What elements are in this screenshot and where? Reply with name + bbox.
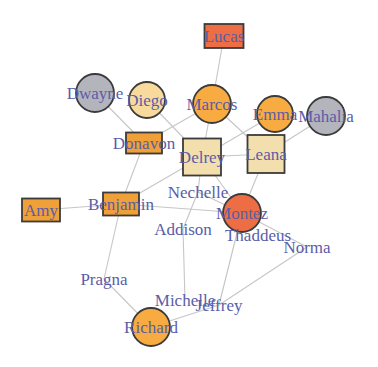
edge-addison-michelle <box>183 229 185 300</box>
node-delrey <box>183 139 221 176</box>
node-richard <box>132 308 170 346</box>
node-donavon <box>126 133 162 154</box>
node-emma <box>257 96 293 132</box>
node-montez <box>223 194 261 232</box>
edge-nechelle-addison <box>183 192 198 229</box>
node-dwayne <box>76 74 114 112</box>
node-amy <box>22 199 60 222</box>
node-benjamin <box>103 193 139 216</box>
graph-canvas: LucasDwayneDiegoMarcosEmmaMahaliaDonavon… <box>0 0 378 367</box>
node-diego <box>129 82 165 118</box>
node-marcos <box>193 85 231 123</box>
edge-norma-jeffrey <box>219 247 307 305</box>
node-leana <box>248 135 285 173</box>
node-label-norma: Norma <box>283 238 331 257</box>
node-mahalia <box>307 97 345 135</box>
network-graph: LucasDwayneDiegoMarcosEmmaMahaliaDonavon… <box>0 0 378 367</box>
node-lucas <box>205 24 244 48</box>
